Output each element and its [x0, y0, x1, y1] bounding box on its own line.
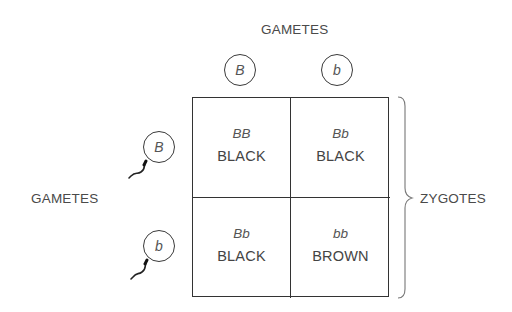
punnett-square-grid: BB BLACK Bb BLACK Bb BLACK bb BROWN — [192, 97, 389, 297]
phenotype: BROWN — [312, 248, 369, 264]
sperm-tail-icon — [129, 161, 146, 178]
sperm-tail-icon — [131, 260, 147, 279]
gamete-top-B: B — [224, 54, 256, 86]
gamete-left-B: B — [143, 131, 175, 163]
phenotype: BLACK — [217, 148, 266, 164]
genotype: Bb — [332, 126, 349, 141]
genotype: Bb — [233, 226, 250, 241]
zygotes-label: ZYGOTES — [420, 192, 486, 206]
gamete-left-b: b — [143, 230, 175, 262]
phenotype: BLACK — [217, 248, 266, 264]
genotype: bb — [333, 226, 348, 241]
brace-icon — [398, 97, 412, 298]
phenotype: BLACK — [316, 148, 365, 164]
left-gametes-label: GAMETES — [31, 192, 98, 206]
gamete-top-b: b — [321, 54, 353, 86]
genotype: BB — [232, 126, 250, 141]
cell-bb: bb BROWN — [291, 198, 390, 298]
cell-Bb-bottom: Bb BLACK — [193, 198, 291, 298]
cell-Bb-top: Bb BLACK — [291, 98, 390, 198]
cell-BB: BB BLACK — [193, 98, 291, 198]
top-gametes-label: GAMETES — [261, 23, 328, 37]
